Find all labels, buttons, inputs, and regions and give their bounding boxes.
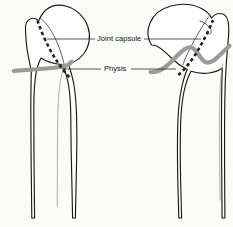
left-femoral-neck-faint-line: [57, 66, 64, 207]
right-femur-outline: [148, 4, 229, 218]
joint-capsule-label: Joint capsule: [97, 34, 141, 43]
left-femur-group: [14, 5, 90, 218]
femur-diagram-svg: Joint capsule Physis: [0, 0, 233, 227]
anatomy-figure: Joint capsule Physis: [0, 0, 233, 227]
right-femur-group: [148, 4, 229, 218]
physis-label: Physis: [104, 64, 127, 73]
